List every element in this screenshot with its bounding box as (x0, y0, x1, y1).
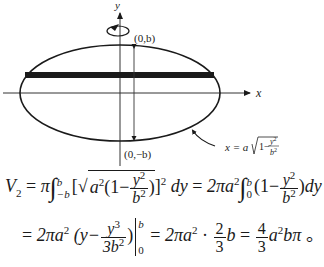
curve-equation-label: x = a 1− y2 b2 (224, 136, 279, 157)
evaluation-bar (135, 218, 136, 256)
paren-close: ) (127, 225, 133, 245)
fraction-4-3: 43 (256, 220, 268, 255)
integral-sign: ∫ (50, 173, 57, 202)
equals-sign: = (26, 176, 36, 196)
equals-sign: = (150, 225, 160, 245)
fraction-2-3: 23 (214, 220, 226, 255)
equals-sign: = (240, 225, 250, 245)
x-axis-label: x (255, 86, 262, 100)
radicand: a2(1−y2b2) (88, 170, 155, 206)
integral-limits: b0 (247, 176, 253, 200)
integral-sign: ∫ (239, 173, 246, 202)
point-top-label: (0,b) (134, 32, 155, 45)
evaluation-limits: b0 (138, 218, 144, 256)
svg-text:x = a: x = a (224, 141, 249, 153)
svg-text:y2: y2 (269, 136, 277, 146)
paren-open: (1− (254, 176, 279, 196)
equals-sign: = (22, 225, 32, 245)
y-axis-label: y (114, 0, 120, 11)
rotation-arrow-icon (107, 24, 129, 36)
fraction-y2-b2: y2b2 (280, 171, 298, 206)
pi-symbol: π (41, 176, 50, 196)
coefficient: 2πa (37, 225, 64, 245)
sqrt-sign: √ (78, 176, 88, 196)
coefficient-exponent: 2 (192, 224, 198, 236)
end-mark: 。 (306, 225, 324, 245)
coefficient: 2πa (165, 225, 192, 245)
volume-symbol: V (5, 176, 16, 196)
differential: dy (171, 176, 188, 196)
volume-equation-line-2: = 2πa2 (y−y33b2)b0 = 2πa2 · 23b = 43a2bπ… (22, 218, 324, 256)
differential: dy (305, 176, 322, 196)
equals-sign: = (192, 176, 202, 196)
point-bottom-label: (0,−b) (124, 148, 152, 161)
volume-equation-line-1: V2 = π∫b−b[√a2(1−y2b2)]2 dy = 2πa2∫b0(1−… (5, 170, 322, 206)
integral-limits: b−b (57, 176, 70, 200)
square-exponent: 2 (161, 175, 167, 187)
volume-subscript: 2 (16, 187, 22, 199)
b-symbol: b (227, 225, 236, 245)
fraction-y3-3b2: y33b2 (101, 220, 127, 255)
fraction-y2-b2: y2b2 (130, 171, 148, 206)
curve-pointer-arrow (193, 131, 215, 146)
ellipse-diagram: y x (0,b) (0,−b) x = a 1− y2 b2 (0, 0, 321, 170)
disk-slab (25, 72, 214, 78)
paren-open: (y− (74, 225, 100, 245)
coefficient: 2πa (207, 176, 234, 196)
svg-text:1−: 1− (259, 141, 270, 152)
result: a (269, 225, 278, 245)
result-tail: bπ (283, 225, 301, 245)
svg-text:b2: b2 (270, 147, 277, 157)
coefficient-exponent: 2 (64, 224, 70, 236)
multiply-dot: · (202, 225, 208, 245)
